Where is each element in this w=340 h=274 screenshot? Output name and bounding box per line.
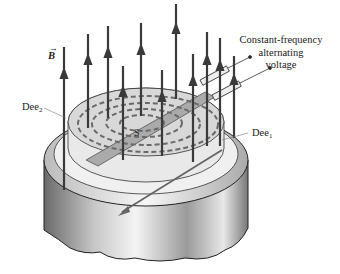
source-label: S <box>134 127 140 139</box>
dees <box>68 88 224 182</box>
dee2-label: Dee2 <box>22 101 42 116</box>
dee2-leader <box>44 108 66 118</box>
voltage-label: Constant-frequency alternating voltage <box>228 34 334 72</box>
dee1-label: Dee1 <box>252 127 272 142</box>
field-label: →B <box>48 50 55 62</box>
